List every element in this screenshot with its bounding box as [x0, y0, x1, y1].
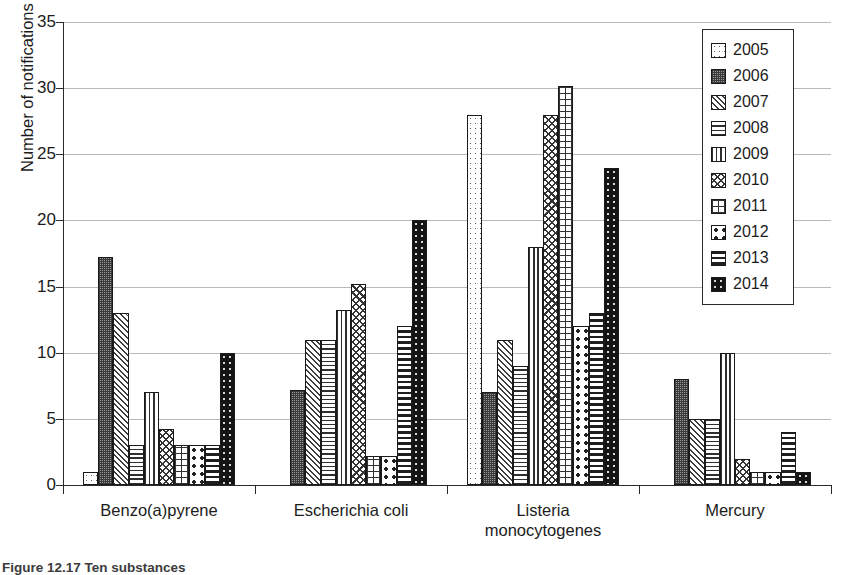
bar-2007-escherichia-coli — [305, 340, 320, 486]
legend-item-2010[interactable]: 2010 — [711, 167, 787, 193]
bar-2010-benzo-a-pyrene — [159, 429, 174, 485]
bar-2010-escherichia-coli — [351, 284, 366, 485]
legend-item-2006[interactable]: 2006 — [711, 63, 787, 89]
bar-2009-mercury — [720, 353, 735, 485]
x-category-label-2-line-1: monocytogenes — [447, 520, 639, 540]
bar-2008-escherichia-coli — [321, 340, 336, 486]
x-tick-mark-2 — [447, 485, 448, 494]
bar-2008-mercury — [705, 419, 720, 485]
bar-2012-escherichia-coli — [381, 456, 396, 485]
legend-item-2013[interactable]: 2013 — [711, 245, 787, 271]
x-tick-mark-1 — [255, 485, 256, 494]
y-tick-label-30: 30 — [37, 79, 56, 96]
bar-2013-escherichia-coli — [397, 326, 412, 485]
bar-2012-benzo-a-pyrene — [189, 445, 204, 485]
y-tick-mark-25 — [56, 154, 63, 155]
bar-2006-listeria-monocytogenes — [482, 392, 497, 485]
legend-label-2006: 2006 — [733, 67, 769, 85]
bar-2005-listeria-monocytogenes — [467, 115, 482, 485]
bar-2008-listeria-monocytogenes — [513, 366, 528, 485]
bar-2009-benzo-a-pyrene — [144, 392, 159, 485]
x-category-label-2: Listeriamonocytogenes — [447, 500, 639, 540]
legend-item-2011[interactable]: 2011 — [711, 193, 787, 219]
legend-item-2009[interactable]: 2009 — [711, 141, 787, 167]
legend-item-2008[interactable]: 2008 — [711, 115, 787, 141]
bar-2012-listeria-monocytogenes — [573, 326, 588, 485]
bar-2011-benzo-a-pyrene — [174, 445, 189, 485]
bar-2014-escherichia-coli — [412, 220, 427, 485]
bar-2006-escherichia-coli — [290, 390, 305, 485]
bar-2013-benzo-a-pyrene — [205, 445, 220, 485]
x-category-label-2-line-0: Listeria — [447, 500, 639, 520]
legend-swatch-icon-2010 — [711, 173, 726, 188]
legend-label-2005: 2005 — [733, 41, 769, 59]
bar-2011-listeria-monocytogenes — [558, 86, 573, 486]
legend-swatch-icon-2011 — [711, 199, 726, 214]
y-tick-mark-5 — [56, 419, 63, 420]
legend-label-2007: 2007 — [733, 93, 769, 111]
y-axis-label: Number of notifications — [18, 3, 37, 172]
legend-label-2012: 2012 — [733, 223, 769, 241]
gridline-10 — [63, 353, 831, 354]
bar-2010-mercury — [735, 459, 750, 485]
x-tick-mark-3 — [639, 485, 640, 494]
y-axis-line — [63, 22, 64, 486]
bar-2014-benzo-a-pyrene — [220, 353, 235, 485]
legend-swatch-icon-2012 — [711, 225, 726, 240]
bar-2009-listeria-monocytogenes — [528, 247, 543, 485]
bar-2014-mercury — [796, 472, 811, 485]
legend-swatch-icon-2008 — [711, 121, 726, 136]
legend-swatch-icon-2009 — [711, 147, 726, 162]
bar-2006-mercury — [674, 379, 689, 485]
figure-caption: Figure 12.17 Ten substances — [2, 560, 702, 575]
legend-rows: 2005200620072008200920102011201220132014 — [711, 37, 787, 297]
legend-label-2014: 2014 — [733, 275, 769, 293]
bar-chart-figure: Number of notifications 05101520253035 B… — [0, 0, 853, 575]
bar-2011-mercury — [750, 472, 765, 485]
bar-2006-benzo-a-pyrene — [98, 257, 113, 485]
bar-2009-escherichia-coli — [336, 310, 351, 485]
y-tick-label-5: 5 — [47, 410, 56, 427]
y-tick-mark-10 — [56, 353, 63, 354]
x-category-label-1: Escherichia coli — [255, 500, 447, 520]
x-category-label-1-line-0: Escherichia coli — [255, 500, 447, 520]
bar-2007-benzo-a-pyrene — [113, 313, 128, 485]
y-tick-mark-35 — [56, 22, 63, 23]
legend-label-2013: 2013 — [733, 249, 769, 267]
bar-2011-escherichia-coli — [366, 456, 381, 485]
y-tick-label-0: 0 — [47, 476, 56, 493]
legend-item-2005[interactable]: 2005 — [711, 37, 787, 63]
legend-swatch-icon-2005 — [711, 43, 726, 58]
bar-2007-mercury — [689, 419, 704, 485]
x-category-label-3: Mercury — [639, 500, 831, 520]
x-category-label-0-line-0: Benzo(a)pyrene — [63, 500, 255, 520]
bar-2013-listeria-monocytogenes — [589, 313, 604, 485]
bar-2005-benzo-a-pyrene — [83, 472, 98, 485]
y-tick-mark-0 — [56, 485, 63, 486]
bar-2010-listeria-monocytogenes — [543, 115, 558, 485]
bar-2012-mercury — [765, 472, 780, 485]
legend-label-2008: 2008 — [733, 119, 769, 137]
legend-item-2012[interactable]: 2012 — [711, 219, 787, 245]
y-tick-label-10: 10 — [37, 344, 56, 361]
bar-2008-benzo-a-pyrene — [129, 445, 144, 485]
legend-label-2010: 2010 — [733, 171, 769, 189]
legend-swatch-icon-2006 — [711, 69, 726, 84]
legend: 2005200620072008200920102011201220132014 — [702, 29, 794, 305]
legend-item-2007[interactable]: 2007 — [711, 89, 787, 115]
y-tick-mark-30 — [56, 88, 63, 89]
x-tick-mark-0 — [63, 485, 64, 494]
legend-swatch-icon-2014 — [711, 277, 726, 292]
y-tick-label-25: 25 — [37, 145, 56, 162]
bar-2007-listeria-monocytogenes — [497, 340, 512, 486]
y-tick-label-15: 15 — [37, 278, 56, 295]
y-tick-mark-15 — [56, 287, 63, 288]
x-tick-mark-4 — [831, 485, 832, 494]
bar-2014-listeria-monocytogenes — [604, 168, 619, 485]
y-tick-label-35: 35 — [37, 13, 56, 30]
legend-label-2009: 2009 — [733, 145, 769, 163]
legend-item-2014[interactable]: 2014 — [711, 271, 787, 297]
legend-label-2011: 2011 — [733, 197, 767, 215]
gridline-35 — [63, 22, 831, 23]
y-tick-mark-20 — [56, 220, 63, 221]
